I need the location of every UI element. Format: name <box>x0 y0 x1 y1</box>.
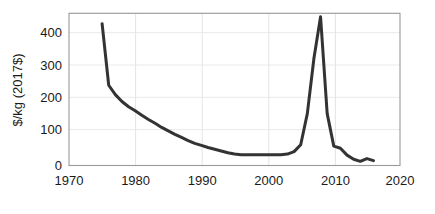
price-series-line <box>102 17 373 162</box>
plot-frame <box>69 13 400 165</box>
xtick-label-2010: 2010 <box>321 173 350 188</box>
chart-container: 400 300 200 100 0 1970 1980 1990 2000 20… <box>0 0 435 214</box>
xtick-label-2000: 2000 <box>254 173 283 188</box>
y-axis-label: $/kg (2017$) <box>10 54 25 127</box>
ytick-label-200: 200 <box>40 90 62 105</box>
xtick-label-1970: 1970 <box>55 173 84 188</box>
ytick-label-0: 0 <box>55 158 62 173</box>
y-axis-ticklabels: 400 300 200 100 0 <box>40 25 62 173</box>
x-axis-ticklabels: 1970 1980 1990 2000 2010 2020 <box>55 173 415 188</box>
ytick-label-400: 400 <box>40 25 62 40</box>
xtick-label-1980: 1980 <box>121 173 150 188</box>
line-chart: 400 300 200 100 0 1970 1980 1990 2000 20… <box>0 0 435 214</box>
gridlines <box>69 13 400 165</box>
plot-border <box>69 13 400 165</box>
xtick-label-1990: 1990 <box>188 173 217 188</box>
ytick-label-300: 300 <box>40 58 62 73</box>
ytick-label-100: 100 <box>40 122 62 137</box>
xtick-label-2020: 2020 <box>386 173 415 188</box>
